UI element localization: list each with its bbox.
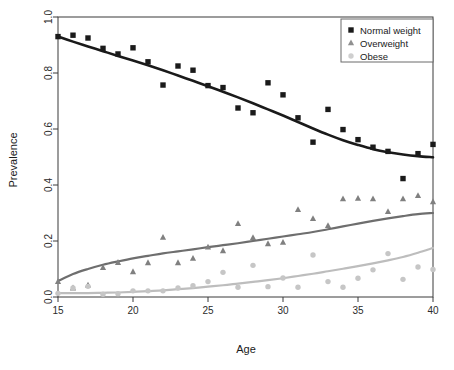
data-point-normal-weight (130, 45, 135, 50)
data-point-normal-weight (280, 92, 285, 97)
x-axis-tick-label: 30 (277, 305, 289, 316)
y-axis-tick-label: 0.0 (43, 290, 54, 304)
x-axis-tick-label: 25 (202, 305, 214, 316)
data-point-obese (310, 252, 315, 257)
data-point-overweight (310, 215, 316, 221)
data-point-normal-weight (55, 34, 60, 39)
x-axis-tick-label: 40 (427, 305, 439, 316)
data-point-overweight (355, 195, 361, 201)
y-axis-title: Prevalence (7, 132, 19, 187)
data-point-normal-weight (205, 83, 210, 88)
data-point-obese (400, 277, 405, 282)
data-point-overweight (130, 268, 136, 274)
data-point-normal-weight (70, 33, 75, 38)
data-point-obese (415, 264, 420, 269)
data-point-normal-weight (220, 85, 225, 90)
data-point-overweight (145, 259, 151, 265)
data-point-normal-weight (115, 51, 120, 56)
data-point-overweight (160, 234, 166, 240)
data-point-normal-weight (250, 110, 255, 115)
data-point-overweight (340, 196, 346, 202)
circle-icon (348, 53, 353, 58)
x-axis-title: Age (236, 343, 256, 355)
data-point-normal-weight (145, 59, 150, 64)
data-point-normal-weight (355, 137, 360, 142)
data-point-normal-weight (415, 151, 420, 156)
data-point-obese (55, 291, 60, 296)
data-point-obese (340, 285, 345, 290)
x-axis-tick-label: 20 (127, 305, 139, 316)
fitted-curves-group (58, 37, 433, 294)
chart-legend[interactable]: Normal weightOverweightObese (341, 19, 433, 62)
data-point-overweight (175, 259, 181, 265)
data-point-overweight (430, 198, 436, 204)
y-axis-tick-label: 0.8 (43, 66, 54, 80)
data-point-obese (190, 283, 195, 288)
data-point-obese (175, 285, 180, 290)
fit-line-obese (58, 248, 433, 293)
data-point-overweight (400, 196, 406, 202)
data-point-normal-weight (265, 80, 270, 85)
data-point-normal-weight (370, 145, 375, 150)
legend-label-0: Normal weight (360, 25, 421, 36)
data-point-normal-weight (400, 176, 405, 181)
data-point-obese (100, 292, 105, 297)
data-point-normal-weight (310, 139, 315, 144)
data-point-obese (280, 275, 285, 280)
prevalence-by-age-chart: 0.00.20.40.60.81.0152025303540 Normal we… (0, 0, 454, 370)
data-point-normal-weight (385, 149, 390, 154)
data-point-normal-weight (160, 82, 165, 87)
data-point-obese (250, 263, 255, 268)
data-point-obese (160, 288, 165, 293)
data-point-overweight (220, 247, 226, 253)
data-point-obese (70, 285, 75, 290)
x-axis-tick-label: 15 (52, 305, 64, 316)
data-point-overweight (325, 222, 331, 228)
data-point-normal-weight (295, 115, 300, 120)
data-point-overweight (235, 220, 241, 226)
data-point-obese (85, 284, 90, 289)
data-point-overweight (370, 196, 376, 202)
data-point-overweight (295, 206, 301, 212)
data-point-obese (115, 291, 120, 296)
data-point-obese (130, 288, 135, 293)
data-point-obese (355, 276, 360, 281)
data-point-normal-weight (85, 35, 90, 40)
y-axis-tick-label: 1.0 (43, 10, 54, 24)
data-point-normal-weight (325, 107, 330, 112)
data-point-overweight (265, 240, 271, 246)
data-point-obese (295, 285, 300, 290)
legend-label-1: Overweight (360, 38, 408, 49)
data-point-obese (325, 279, 330, 284)
data-point-overweight (190, 255, 196, 261)
data-point-obese (205, 279, 210, 284)
data-point-normal-weight (175, 63, 180, 68)
fit-line-overweight (58, 213, 433, 281)
y-axis-tick-label: 0.2 (43, 234, 54, 248)
data-points-group (55, 33, 436, 297)
x-axis-tick-label: 35 (352, 305, 364, 316)
data-point-obese (265, 284, 270, 289)
data-point-normal-weight (190, 68, 195, 73)
data-point-normal-weight (100, 46, 105, 51)
data-point-overweight (250, 234, 256, 240)
data-point-obese (430, 267, 435, 272)
data-point-obese (145, 288, 150, 293)
data-point-obese (385, 251, 390, 256)
data-point-overweight (385, 208, 391, 214)
data-point-overweight (415, 192, 421, 198)
data-point-normal-weight (235, 105, 240, 110)
y-axis-tick-label: 0.4 (43, 178, 54, 192)
data-point-overweight (280, 239, 286, 245)
data-point-obese (370, 267, 375, 272)
data-point-normal-weight (340, 127, 345, 132)
data-point-obese (235, 285, 240, 290)
data-point-normal-weight (430, 142, 435, 147)
legend-label-2: Obese (360, 51, 388, 62)
plot-area: 0.00.20.40.60.81.0152025303540 Normal we… (0, 0, 454, 370)
data-point-obese (220, 270, 225, 275)
square-icon (348, 27, 353, 32)
y-axis-tick-label: 0.6 (43, 122, 54, 136)
